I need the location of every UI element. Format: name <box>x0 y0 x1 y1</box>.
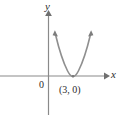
y-axis-label: y <box>45 1 50 12</box>
parabola-curve <box>56 35 91 77</box>
vertex-coordinate-label: (3, 0) <box>59 85 81 95</box>
x-axis-arrowhead <box>104 73 110 80</box>
parabola-figure: y x 0 (3, 0) <box>0 0 120 115</box>
x-axis-label: x <box>111 69 116 80</box>
parabola-right-arrowhead <box>88 30 93 36</box>
graph-canvas <box>0 0 120 115</box>
parabola-left-arrowhead <box>53 30 58 36</box>
vertex-point-marker <box>72 75 75 78</box>
origin-label: 0 <box>39 80 44 90</box>
